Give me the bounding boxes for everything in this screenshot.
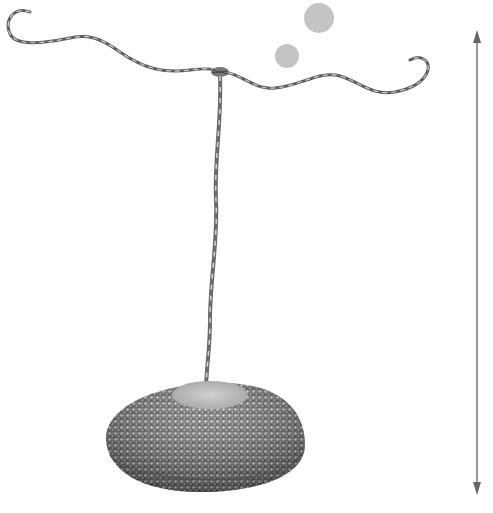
wire-knot	[211, 67, 229, 77]
beaded-base	[106, 381, 305, 492]
height-indicator	[473, 30, 481, 495]
arrow-up-icon	[473, 30, 481, 43]
product-photo: wire jewelry stand with beaded base	[0, 0, 493, 513]
decor-dot-large	[304, 3, 334, 33]
base-top-disc	[172, 381, 248, 409]
jewelry-stand-illustration	[0, 0, 493, 513]
vertical-twisted-wire	[206, 76, 220, 390]
arrow-down-icon	[473, 482, 481, 495]
decor-dot-small	[275, 44, 299, 68]
